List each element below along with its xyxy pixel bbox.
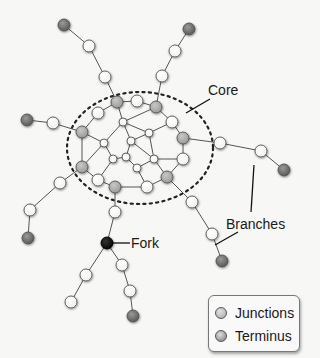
normal-node-icon: [169, 45, 181, 57]
edges-layer: [27, 25, 284, 316]
terminus-node-icon: [22, 232, 34, 244]
junction-node-icon: [150, 101, 162, 113]
legend-item-terminus: Terminus: [215, 327, 292, 345]
normal-node-icon: [127, 137, 135, 145]
normal-node-icon: [80, 269, 92, 281]
normal-node-icon: [206, 228, 218, 240]
junction-node-icon: [161, 171, 173, 183]
normal-node-icon: [65, 296, 77, 308]
normal-node-icon: [156, 70, 168, 82]
terminus-node-icon: [58, 19, 70, 31]
normal-node-icon: [186, 196, 198, 208]
junction-node-icon: [111, 96, 123, 108]
normal-node-icon: [141, 181, 153, 193]
normal-node-icon: [92, 174, 104, 186]
junction-swatch-icon: [215, 307, 227, 319]
normal-node-icon: [166, 116, 178, 128]
legend-label: Terminus: [235, 328, 292, 344]
core-callout-line: [186, 99, 210, 113]
core-label: Core: [208, 83, 238, 97]
fork-label: Fork: [131, 236, 159, 250]
legend-item-junctions: Junctions: [215, 304, 294, 322]
normal-node-icon: [133, 164, 141, 172]
legend: Junctions Terminus: [208, 295, 300, 352]
normal-node-icon: [119, 118, 127, 126]
junction-node-icon: [76, 161, 88, 173]
terminus-node-icon: [21, 114, 33, 126]
nodes-layer: [21, 19, 290, 322]
normal-node-icon: [109, 155, 117, 163]
normal-node-icon: [131, 95, 143, 107]
fork-node-icon: [101, 237, 113, 249]
terminus-swatch-icon: [215, 330, 227, 342]
normal-node-icon: [109, 206, 121, 218]
branches-label: Branches: [226, 217, 285, 231]
terminus-node-icon: [183, 23, 195, 35]
normal-node-icon: [255, 145, 267, 157]
normal-node-icon: [150, 155, 158, 163]
terminus-node-icon: [278, 164, 290, 176]
normal-node-icon: [83, 40, 95, 52]
junction-node-icon: [177, 132, 189, 144]
junction-node-icon: [76, 126, 88, 138]
normal-node-icon: [214, 137, 226, 149]
normal-node-icon: [54, 177, 66, 189]
normal-node-icon: [24, 204, 36, 216]
terminus-node-icon: [216, 255, 228, 267]
normal-node-icon: [99, 71, 111, 83]
normal-node-icon: [177, 153, 189, 165]
branches-callout-line: [251, 165, 254, 212]
normal-node-icon: [92, 107, 104, 119]
branches-callout-line: [215, 232, 238, 245]
legend-label: Junctions: [235, 305, 294, 321]
normal-node-icon: [100, 139, 108, 147]
normal-node-icon: [47, 117, 59, 129]
normal-node-icon: [116, 259, 128, 271]
normal-node-icon: [124, 285, 136, 297]
normal-node-icon: [122, 153, 130, 161]
normal-node-icon: [145, 129, 153, 137]
terminus-node-icon: [127, 310, 139, 322]
junction-node-icon: [109, 181, 121, 193]
